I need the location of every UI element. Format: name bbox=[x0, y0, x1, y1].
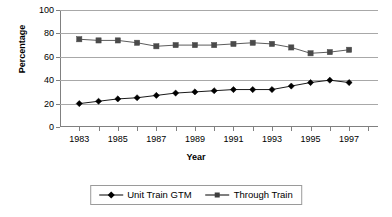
data-point-square bbox=[212, 43, 217, 48]
x-tick-label: 1989 bbox=[185, 134, 205, 144]
data-point-diamond bbox=[115, 96, 121, 102]
x-tick bbox=[349, 127, 350, 131]
x-tick-label: 1985 bbox=[108, 134, 128, 144]
x-tick bbox=[368, 127, 369, 131]
chart-legend: Unit Train GTM Through Train bbox=[90, 185, 302, 205]
x-tick-label: 1991 bbox=[223, 134, 243, 144]
y-axis-title: Percentage bbox=[17, 0, 27, 99]
legend-label: Unit Train GTM bbox=[127, 189, 191, 200]
x-tick bbox=[311, 127, 312, 131]
chart-container: Percentage 020406080100 1983198519871989… bbox=[0, 0, 392, 217]
y-tick bbox=[56, 127, 60, 128]
data-point-diamond bbox=[288, 83, 294, 89]
x-tick bbox=[291, 127, 292, 131]
data-point-diamond bbox=[307, 79, 313, 85]
y-tick-label: 100 bbox=[39, 5, 54, 15]
data-point-square bbox=[327, 50, 332, 55]
x-tick bbox=[214, 127, 215, 131]
x-tick bbox=[79, 127, 80, 131]
x-tick bbox=[176, 127, 177, 131]
data-point-square bbox=[115, 38, 120, 43]
plot-area: 020406080100 198319851987198919911993199… bbox=[60, 10, 378, 127]
y-tick-label: 40 bbox=[44, 75, 54, 85]
data-point-diamond bbox=[153, 92, 159, 98]
x-tick bbox=[233, 127, 234, 131]
data-point-diamond bbox=[173, 90, 179, 96]
data-point-square bbox=[346, 47, 351, 52]
data-point-square bbox=[154, 44, 159, 49]
y-tick-label: 60 bbox=[44, 52, 54, 62]
data-point-square bbox=[173, 43, 178, 48]
data-point-diamond bbox=[211, 88, 217, 94]
x-tick-label: 1997 bbox=[339, 134, 359, 144]
data-point-square bbox=[231, 41, 236, 46]
x-axis-title: Year bbox=[0, 152, 392, 162]
data-point-square bbox=[192, 43, 197, 48]
data-point-diamond bbox=[230, 86, 236, 92]
data-point-square bbox=[289, 45, 294, 50]
data-point-square bbox=[269, 41, 274, 46]
x-tick-label: 1983 bbox=[69, 134, 89, 144]
x-tick-label: 1987 bbox=[146, 134, 166, 144]
y-tick-label: 0 bbox=[49, 122, 54, 132]
legend-label: Through Train bbox=[234, 189, 293, 200]
square-marker-icon bbox=[206, 190, 230, 200]
x-tick bbox=[253, 127, 254, 131]
data-point-diamond bbox=[95, 98, 101, 104]
data-point-square bbox=[96, 38, 101, 43]
x-tick bbox=[99, 127, 100, 131]
x-tick-label: 1995 bbox=[301, 134, 321, 144]
data-point-diamond bbox=[269, 86, 275, 92]
data-point-square bbox=[250, 40, 255, 45]
x-tick bbox=[118, 127, 119, 131]
data-point-diamond bbox=[250, 86, 256, 92]
x-tick bbox=[195, 127, 196, 131]
data-point-square bbox=[134, 40, 139, 45]
data-point-diamond bbox=[327, 77, 333, 83]
data-point-diamond bbox=[76, 101, 82, 107]
data-point-diamond bbox=[346, 79, 352, 85]
x-tick-label: 1993 bbox=[262, 134, 282, 144]
legend-item-unit-train-gtm: Unit Train GTM bbox=[99, 189, 191, 200]
data-point-diamond bbox=[134, 95, 140, 101]
data-point-square bbox=[77, 37, 82, 42]
legend-item-through-train: Through Train bbox=[206, 189, 293, 200]
x-tick bbox=[156, 127, 157, 131]
x-tick bbox=[272, 127, 273, 131]
x-tick bbox=[137, 127, 138, 131]
y-tick-label: 20 bbox=[44, 99, 54, 109]
data-point-diamond bbox=[192, 89, 198, 95]
y-tick-label: 80 bbox=[44, 28, 54, 38]
data-point-square bbox=[308, 51, 313, 56]
x-tick bbox=[330, 127, 331, 131]
diamond-marker-icon bbox=[99, 190, 123, 200]
series-layer bbox=[60, 10, 378, 127]
